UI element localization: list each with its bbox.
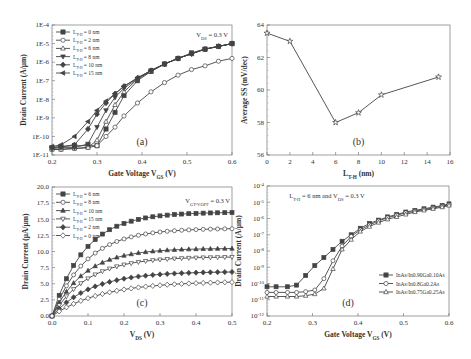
y-tick-label: 20.0 — [37, 183, 50, 191]
x-tick-label: 0.5 — [399, 319, 408, 327]
svg-text:LT-H = 0 nm: LT-H = 0 nm — [73, 29, 100, 37]
y-tick-label: 10-4 — [253, 182, 265, 191]
y-tick-label: 1E-10 — [32, 133, 50, 141]
panel-label: (d) — [342, 297, 354, 309]
x-axis-label: Gate Voltage VGS (V) — [108, 169, 176, 180]
panel-label: (c) — [136, 297, 147, 309]
y-tick-label: 10-10 — [250, 279, 264, 288]
x-tick-label: 6 — [334, 158, 338, 166]
y-axis-label: Drain Current (μA/μm) — [21, 213, 30, 289]
legend-item: LT-H = 8 nm — [56, 199, 100, 207]
x-tick-label: 8 — [357, 158, 361, 166]
y-tick-label: 1E-9 — [35, 114, 49, 122]
annotation: VDS = 0.3 V — [196, 31, 228, 41]
y-axis-label: Drain Current (A/μm) — [19, 54, 28, 126]
x-tick-label: 0.2 — [263, 319, 272, 327]
legend-item: LT-H = 6 nm — [56, 191, 100, 199]
svg-text:LT-H = 10 nm: LT-H = 10 nm — [73, 62, 103, 70]
x-axis-label: VDS (V) — [130, 330, 155, 341]
legend-item: LT-H = 10 nm — [56, 62, 103, 70]
figure: 0.20.30.40.50.61E-111E-101E-91E-81E-71E-… — [0, 0, 471, 359]
y-tick-label: 10-11 — [251, 296, 265, 305]
legend-item: LT-H = 15 nm — [56, 70, 103, 78]
y-tick-label: 62 — [257, 54, 265, 62]
x-tick-label: 0.3 — [308, 319, 317, 327]
y-tick-label: 17.5 — [37, 199, 50, 207]
y-tick-label: 12.5 — [37, 232, 50, 240]
y-tick-label: 58 — [257, 119, 265, 127]
svg-text:LT-H = 8 nm: LT-H = 8 nm — [73, 54, 100, 62]
y-tick-label: 0.0 — [40, 312, 49, 320]
panel-label: (b) — [353, 136, 365, 148]
y-tick-label: 1E-5 — [35, 40, 49, 48]
legend-item: InAs/In0.75Ga0.25As — [379, 289, 445, 295]
x-tick-label: 0.6 — [228, 158, 237, 166]
x-tick-label: 0.3 — [156, 319, 165, 327]
chart-panel-d: 0.20.30.40.50.610-1210-1110-1010-910-810… — [234, 182, 454, 341]
y-tick-label: 10-7 — [253, 231, 265, 240]
x-tick-label: 0.4 — [138, 158, 147, 166]
x-tick-label: 0.0 — [48, 319, 57, 327]
x-tick-label: 16 — [447, 158, 455, 166]
chart-panel-c: 0.00.10.20.30.40.50.02.55.07.510.012.515… — [21, 183, 237, 341]
svg-text:InAs/In0.8Ga0.2As: InAs/In0.8Ga0.2As — [396, 281, 439, 287]
svg-text:LT-H = 10 nm: LT-H = 10 nm — [73, 208, 103, 216]
y-tick-label: 5.0 — [40, 280, 49, 288]
svg-text:LT-H = 2 nm: LT-H = 2 nm — [73, 37, 100, 45]
x-tick-label: 0.4 — [354, 319, 363, 327]
x-tick-label: 0 — [265, 158, 269, 166]
legend-item: LT-H = 2 nm — [56, 37, 100, 45]
annotation: LT-H = 6 nm and VDS = 0.3 V — [289, 192, 365, 202]
x-axis-label: Gate Voltage VGS (V) — [324, 330, 392, 341]
y-tick-label: 1E-11 — [32, 151, 49, 159]
svg-text:LT-H = 6 nm: LT-H = 6 nm — [73, 191, 100, 199]
y-tick-label: 10-5 — [253, 198, 265, 207]
panel-label: (a) — [136, 136, 147, 148]
y-tick-label: 60 — [257, 86, 265, 94]
svg-text:LT-H = 6 nm: LT-H = 6 nm — [73, 45, 100, 53]
x-axis-label: LT-H (nm) — [343, 169, 375, 180]
y-tick-label: 1E-8 — [35, 96, 49, 104]
legend-item: LT-H = 0 nm — [56, 29, 100, 37]
x-tick-label: 14 — [424, 158, 432, 166]
svg-text:InAs/In0.75Ga0.25As: InAs/In0.75Ga0.25As — [396, 289, 445, 295]
svg-text:InAs/In0.90Ga0.10As: InAs/In0.90Ga0.10As — [396, 272, 445, 278]
legend-item: LT-H = 6 nm — [56, 45, 100, 53]
svg-text:LT-H = 15 nm: LT-H = 15 nm — [73, 216, 103, 224]
x-tick-label: 0.2 — [120, 319, 129, 327]
legend-item: InAs/In0.8Ga0.2As — [379, 281, 439, 287]
y-tick-label: 1E-6 — [35, 58, 49, 66]
y-tick-label: 1E-7 — [35, 77, 49, 85]
legend-item: LT-H = 8 nm — [56, 54, 100, 62]
y-tick-label: 10-6 — [253, 214, 265, 223]
y-tick-label: 64 — [257, 21, 265, 29]
x-tick-label: 0.3 — [93, 158, 102, 166]
annotation: VGT-VOFF = 0.3 V — [185, 197, 230, 207]
y-axis-label: Average SS (mV/dec) — [240, 56, 249, 124]
x-tick-label: 0.2 — [48, 158, 57, 166]
series-line — [267, 33, 439, 122]
x-tick-label: 12 — [401, 158, 409, 166]
x-tick-label: 10 — [378, 158, 386, 166]
legend-item: LT-H = 10 nm — [56, 208, 103, 216]
x-tick-label: 0.6 — [445, 319, 454, 327]
x-tick-label: 2 — [288, 158, 292, 166]
y-tick-label: 10.0 — [37, 248, 50, 256]
series-line — [267, 205, 449, 293]
svg-text:LT-H = 2 nm: LT-H = 2 nm — [73, 224, 100, 232]
y-tick-label: 15.0 — [37, 216, 50, 224]
legend-item: InAs/In0.90Ga0.10As — [379, 272, 445, 278]
chart-panel-a: 0.20.30.40.50.61E-111E-101E-91E-81E-71E-… — [19, 21, 237, 180]
x-tick-label: 0.5 — [228, 319, 237, 327]
y-tick-label: 7.5 — [40, 264, 49, 272]
y-tick-label: 2.5 — [40, 296, 49, 304]
legend-item: LT-H = 2 nm — [56, 224, 100, 232]
y-tick-label: 56 — [257, 151, 265, 159]
y-axis-label: Drain Current (A/μm) — [234, 215, 243, 287]
y-tick-label: 1E-4 — [35, 21, 49, 29]
svg-text:LT-H = 15 nm: LT-H = 15 nm — [73, 70, 103, 78]
x-tick-label: 0.4 — [192, 319, 201, 327]
svg-text:LT-H = 8 nm: LT-H = 8 nm — [73, 199, 100, 207]
x-tick-label: 4 — [311, 158, 315, 166]
chart-panel-b: 02468101214165658606264LT-H (nm)Average … — [240, 21, 454, 180]
